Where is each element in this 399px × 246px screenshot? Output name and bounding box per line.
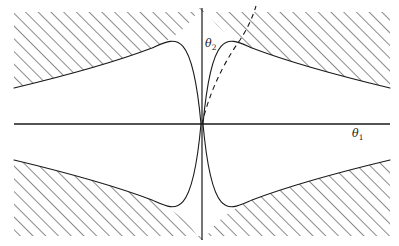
theta2-symbol: θ (205, 37, 212, 50)
theta1-symbol: θ (352, 127, 359, 140)
theta1-subscript: 1 (359, 133, 364, 142)
cusp-region-diagram: θ1 θ2 (0, 0, 399, 246)
diagram-canvas (0, 0, 399, 246)
theta2-subscript: 2 (212, 43, 217, 52)
theta1-axis-label: θ1 (352, 128, 363, 142)
theta2-axis-label: θ2 (205, 38, 216, 52)
